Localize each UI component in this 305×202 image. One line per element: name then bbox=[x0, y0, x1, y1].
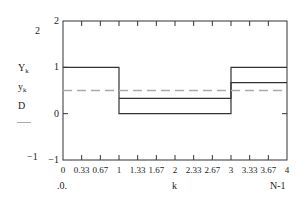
y-outer-bottom-label: −1 bbox=[27, 152, 38, 162]
x-tick-label: 4 bbox=[285, 166, 290, 175]
y-tick-label: 1 bbox=[39, 62, 59, 72]
x-tick-label: 3.67 bbox=[260, 166, 276, 175]
legend-yk: yk bbox=[18, 82, 27, 95]
y-tick-label: 0 bbox=[39, 109, 59, 119]
legend-Yk: Yk bbox=[18, 63, 29, 76]
legend-dash-swatch bbox=[17, 122, 31, 123]
x-tick-label: 0 bbox=[61, 166, 66, 175]
x-range-left-label: .0. bbox=[57, 181, 67, 191]
x-axis-label: k bbox=[172, 181, 177, 191]
x-tick-label: 1.33 bbox=[130, 166, 146, 175]
x-tick-label: 3 bbox=[229, 166, 234, 175]
x-tick-label: 2.33 bbox=[186, 166, 202, 175]
x-tick-label: 3.33 bbox=[242, 166, 258, 175]
x-tick-label: 1.67 bbox=[148, 166, 164, 175]
x-tick-label: 0.33 bbox=[74, 166, 90, 175]
x-tick-label: 2.67 bbox=[204, 166, 220, 175]
x-range-right-label: N-1 bbox=[270, 181, 286, 191]
y-tick-label: 2 bbox=[39, 16, 59, 26]
x-tick-label: 2 bbox=[173, 166, 178, 175]
x-tick-label: 0.67 bbox=[92, 166, 108, 175]
legend-D: D bbox=[18, 101, 25, 111]
y-outer-top-label: 2 bbox=[35, 26, 40, 36]
x-tick-label: 1 bbox=[117, 166, 122, 175]
y-tick-label: −1 bbox=[39, 155, 59, 165]
